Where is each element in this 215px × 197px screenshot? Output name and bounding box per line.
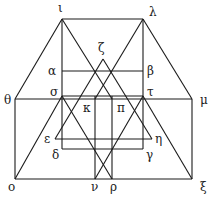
label-theta: θ <box>4 93 11 107</box>
label-beta: β <box>147 64 154 78</box>
label-iota: ι <box>58 1 63 15</box>
label-alpha: α <box>48 64 56 78</box>
label-gamma: γ <box>146 148 153 162</box>
label-epsilon: ε <box>44 132 50 146</box>
label-zeta: ζ <box>98 41 105 55</box>
label-rho: ρ <box>110 180 117 194</box>
geometric-diagram: ι λ ζ α β σ τ θ μ κ π ε η δ γ ο ν ρ ξ <box>0 0 215 197</box>
label-sigma: σ <box>50 85 58 99</box>
label-eta: η <box>155 132 162 146</box>
label-tau: τ <box>147 85 154 99</box>
segment-iota-pi <box>62 19 112 99</box>
label-nu: ν <box>91 180 98 194</box>
label-mu: μ <box>200 93 208 107</box>
diagram-canvas: ι λ ζ α β σ τ θ μ κ π ε η δ γ ο ν ρ ξ <box>0 0 215 197</box>
segment-omicron-sigma <box>15 96 62 179</box>
label-delta: δ <box>52 148 59 162</box>
segment-xi-tau <box>143 96 192 179</box>
label-lambda: λ <box>149 5 157 19</box>
segment-lambda-kappa <box>95 19 143 99</box>
label-pi: π <box>117 101 125 115</box>
label-omicron: ο <box>8 180 15 194</box>
point-labels: ι λ ζ α β σ τ θ μ κ π ε η δ γ ο ν ρ ξ <box>4 1 208 194</box>
label-kappa: κ <box>83 101 91 115</box>
label-xi: ξ <box>200 180 207 194</box>
